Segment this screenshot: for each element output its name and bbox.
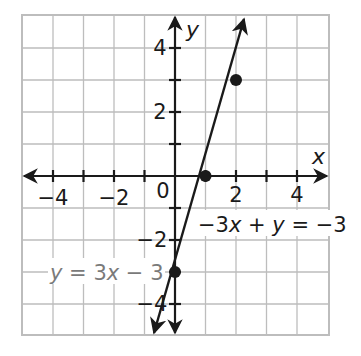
equation-slope-intercept: y = 3x − 3 xyxy=(48,258,165,285)
point-0-neg3 xyxy=(169,266,181,278)
svg-text:y = 3x − 3: y = 3x − 3 xyxy=(49,261,164,285)
point-1-0 xyxy=(200,170,212,182)
axes xyxy=(24,17,327,333)
y-tick-label: −2 xyxy=(137,228,168,252)
svg-text:−3x + y = −3: −3x + y = −3 xyxy=(198,213,347,237)
origin-label: 0 xyxy=(156,179,169,203)
y-tick-label: 2 xyxy=(153,100,166,124)
coordinate-plane: −4 −2 0 2 4 4 2 −2 −4 y x −3x + y = −3 y… xyxy=(0,0,361,356)
y-tick-label: 4 xyxy=(153,36,166,60)
x-tick-label: 4 xyxy=(290,183,303,207)
x-tick-label: −2 xyxy=(99,186,130,210)
x-tick-label: 2 xyxy=(229,183,242,207)
x-axis-label: x xyxy=(311,144,326,169)
x-tick-label: −4 xyxy=(38,186,69,210)
y-axis-label: y xyxy=(185,17,200,42)
point-2-3 xyxy=(230,74,242,86)
equation-standard-form: −3x + y = −3 xyxy=(196,210,347,237)
